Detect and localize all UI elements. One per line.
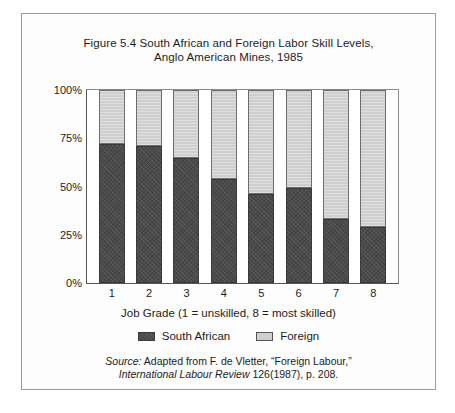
legend-item[interactable]: South African [138,330,230,342]
bar-segment-foreign[interactable] [136,90,162,146]
bar-segment-foreign[interactable] [173,90,199,158]
y-axis-tick-label: 50% [60,181,82,193]
legend-item[interactable]: Foreign [256,330,319,342]
legend-label: South African [162,330,230,342]
figure-frame: Figure 5.4 South African and Foreign Lab… [21,13,436,390]
y-axis-tick-label: 100% [54,84,82,96]
bar-segment-south-african[interactable] [99,144,125,283]
legend-label: Foreign [280,330,319,342]
bar-column[interactable] [211,90,237,283]
x-axis-tick-label: 7 [323,287,349,299]
source-note-line-2: International Labour Review 126(1987), p… [22,368,435,381]
bar-segment-foreign[interactable] [248,90,274,194]
x-axis-tick-label: 3 [173,287,199,299]
bar-segment-south-african[interactable] [360,227,386,283]
bar-segment-south-african[interactable] [136,146,162,283]
source-note-line-1: Source: Adapted from F. de Vletter, “For… [22,355,435,368]
source-journal-title: International Labour Review [119,368,250,380]
chart-title-line-2: Anglo American Mines, 1985 [22,50,435,64]
x-axis-tick-label: 5 [248,287,274,299]
x-axis-tick-label: 8 [360,287,386,299]
bars-layer [87,90,398,283]
bar-column[interactable] [248,90,274,283]
bar-segment-foreign[interactable] [286,90,312,188]
bar-segment-foreign[interactable] [360,90,386,227]
x-axis-tick-label: 1 [99,287,125,299]
chart-title-line-1: Figure 5.4 South African and Foreign Lab… [22,36,435,50]
bar-segment-south-african[interactable] [286,188,312,283]
bar-segment-foreign[interactable] [323,90,349,219]
chart-legend: South AfricanForeign [22,330,435,342]
bar-segment-south-african[interactable] [323,219,349,283]
plot-area: 0%25%50%75%100% 12345678 [86,89,399,284]
legend-swatch-icon [256,332,273,341]
bar-segment-south-african[interactable] [248,194,274,283]
bar-segment-foreign[interactable] [211,90,237,179]
source-note: Source: Adapted from F. de Vletter, “For… [22,355,435,381]
x-axis-title: Job Grade (1 = unskilled, 8 = most skill… [22,307,435,319]
y-axis-tick-label: 0% [66,277,82,289]
bar-column[interactable] [360,90,386,283]
y-axis-tick-label: 75% [60,132,82,144]
source-text-1: Adapted from F. de Vletter, “Foreign Lab… [142,355,352,367]
bar-column[interactable] [173,90,199,283]
bar-column[interactable] [323,90,349,283]
source-label: Source: [105,355,141,367]
source-text-2: 126(1987), p. 208. [250,368,339,380]
bar-segment-foreign[interactable] [99,90,125,144]
x-axis-tick-label: 6 [286,287,312,299]
bar-column[interactable] [99,90,125,283]
bar-segment-south-african[interactable] [173,158,199,283]
y-axis-tick-label: 25% [60,229,82,241]
bar-segment-south-african[interactable] [211,179,237,283]
bar-column[interactable] [286,90,312,283]
x-axis-tick-label: 2 [136,287,162,299]
legend-swatch-icon [138,332,155,341]
chart-title: Figure 5.4 South African and Foreign Lab… [22,36,435,64]
bar-column[interactable] [136,90,162,283]
x-axis-tick-label: 4 [211,287,237,299]
